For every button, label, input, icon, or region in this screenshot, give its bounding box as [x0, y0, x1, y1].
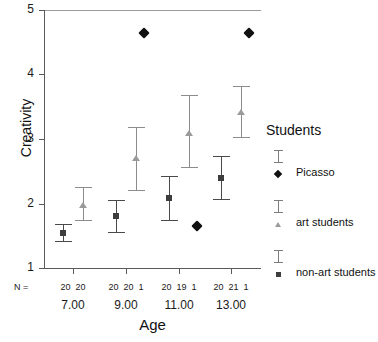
diamond-marker — [191, 220, 202, 231]
triangle-icon — [274, 219, 283, 228]
diamond-marker — [243, 27, 254, 38]
legend-title: Students — [266, 122, 321, 138]
n-value: 20 — [123, 282, 133, 292]
error-bar-icon — [274, 250, 283, 263]
error-bar-icon — [274, 200, 283, 213]
legend-item-picasso[interactable]: Picasso — [266, 150, 378, 184]
x-group-label-9: 9.00 — [96, 298, 156, 312]
n-value: 19 — [176, 282, 186, 292]
y-tick-label-5: 5 — [0, 3, 34, 15]
legend-item-non-art-students[interactable]: non-art students — [266, 250, 378, 284]
x-axis-label: Age — [44, 316, 261, 333]
triangle-marker — [79, 202, 87, 208]
n-value: 21 — [228, 282, 238, 292]
legend-label-non-art-students: non-art students — [296, 266, 376, 278]
n-group-13: 20211 — [203, 282, 259, 292]
triangle-marker — [185, 130, 193, 136]
n-value: 1 — [244, 282, 249, 292]
x-tick-9 — [126, 269, 127, 274]
y-tick-label-2: 2 — [0, 197, 34, 209]
y-tick-3 — [39, 139, 45, 140]
n-value: 20 — [108, 282, 118, 292]
y-tick-1 — [39, 268, 45, 269]
square-marker — [218, 175, 224, 181]
y-tick-label-4: 4 — [0, 67, 34, 79]
legend-label-picasso: Picasso — [296, 166, 335, 178]
triangle-marker — [132, 155, 140, 161]
square-marker — [166, 195, 172, 201]
x-axis-line — [44, 268, 261, 269]
legend-item-art-students[interactable]: art students — [266, 200, 378, 234]
x-group-label-7: 7.00 — [43, 298, 103, 312]
n-group-11: 20191 — [151, 282, 207, 292]
n-value: 20 — [76, 282, 86, 292]
n-equals-label: N = — [14, 282, 28, 292]
creativity-by-age-chart: Creativity 5 4 3 2 1 N = 2020 20201 2019… — [0, 0, 378, 342]
y-tick-label-1: 1 — [0, 261, 34, 273]
square-marker — [113, 213, 119, 219]
y-tick-4 — [39, 74, 45, 75]
sample-size-row: N = 2020 20201 20191 20211 — [0, 282, 270, 295]
n-value: 20 — [213, 282, 223, 292]
diamond-icon — [274, 169, 283, 178]
n-value: 20 — [60, 282, 70, 292]
x-group-label-11: 11.00 — [149, 298, 209, 312]
n-value: 1 — [192, 282, 197, 292]
x-tick-11 — [179, 269, 180, 274]
legend: Students Picasso art students non-art st… — [266, 122, 378, 282]
diamond-marker — [138, 27, 149, 38]
x-tick-13 — [231, 269, 232, 274]
error-bar-icon — [274, 150, 283, 163]
n-group-9: 20201 — [98, 282, 154, 292]
square-marker — [60, 230, 66, 236]
legend-label-art-students: art students — [296, 216, 353, 228]
y-tick-2 — [39, 204, 45, 205]
y-tick-label-3: 3 — [0, 132, 34, 144]
n-value: 20 — [161, 282, 171, 292]
y-tick-5 — [39, 10, 45, 11]
plot-top-rule — [44, 10, 261, 11]
triangle-marker — [237, 109, 245, 115]
n-value: 1 — [139, 282, 144, 292]
x-tick-7 — [73, 269, 74, 274]
square-icon — [274, 269, 283, 278]
x-group-label-13: 13.00 — [201, 298, 261, 312]
n-group-7: 2020 — [45, 282, 101, 292]
